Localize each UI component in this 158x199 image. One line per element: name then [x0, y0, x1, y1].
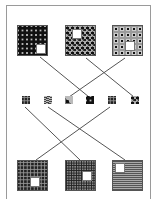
candidate-patch-1[interactable]: [22, 96, 30, 104]
missing-region: [125, 41, 135, 51]
candidate-patch-4[interactable]: [86, 96, 94, 104]
bottom-square-3: [112, 160, 143, 191]
candidate-patch-6[interactable]: [131, 96, 139, 104]
top-square-2: [65, 25, 96, 56]
missing-region: [72, 29, 82, 39]
candidate-patch-2[interactable]: [44, 96, 52, 104]
bottom-square-2: [65, 160, 96, 191]
missing-region: [36, 44, 46, 54]
top-square-3: [112, 25, 143, 56]
candidate-patch-5[interactable]: [108, 96, 116, 104]
candidate-patch-3[interactable]: [65, 96, 73, 104]
missing-region: [82, 171, 92, 181]
top-square-1: [17, 25, 48, 56]
bottom-square-1: [17, 160, 48, 191]
missing-region: [115, 163, 125, 173]
missing-region: [30, 177, 40, 187]
